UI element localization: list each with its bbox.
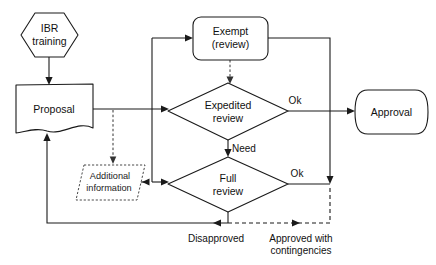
proposal-label: Proposal <box>33 103 74 115</box>
edge-exempt-to-expedited <box>227 60 234 84</box>
edge-label-full-ok: Ok <box>291 168 305 179</box>
flowchart-canvas: IBR training Proposal Additional informa… <box>0 0 436 265</box>
node-additional-information[interactable]: Additional information <box>76 165 145 200</box>
node-ibr-training[interactable]: IBR training <box>21 13 78 57</box>
edge-proposal-to-expedited <box>93 105 169 112</box>
ibr-training-label-line1: IBR <box>41 22 59 34</box>
approval-label: Approval <box>371 106 412 118</box>
edge-label-expedited-ok: Ok <box>289 95 303 106</box>
edge-label-disapproved: Disapproved <box>188 233 244 244</box>
node-expedited-review[interactable]: Expedited review <box>168 83 288 140</box>
additional-information-label-line1: Additional <box>90 171 130 181</box>
node-exempt-review[interactable]: Exempt (review) <box>193 17 268 60</box>
additional-information-label-line2: information <box>86 183 131 193</box>
node-approval[interactable]: Approval <box>355 90 428 134</box>
node-proposal[interactable]: Proposal <box>16 84 93 133</box>
exempt-label-line2: (review) <box>212 38 249 50</box>
edge-ibr-to-proposal <box>45 57 52 85</box>
edge-spine-to-full-review <box>152 178 169 185</box>
edge-label-approved-with-contingencies-line1: Approved with <box>269 233 332 244</box>
full-review-label-line1: Full <box>220 172 237 184</box>
full-review-label-line2: review <box>213 185 244 197</box>
ibr-training-label-line2: training <box>32 35 67 47</box>
edge-spine-to-exempt <box>152 34 193 41</box>
node-full-review[interactable]: Full review <box>168 157 288 212</box>
flowchart-svg: IBR training Proposal Additional informa… <box>0 0 436 265</box>
expedited-review-label-line1: Expedited <box>205 99 252 111</box>
edge-proposal-to-additional-info <box>110 110 117 164</box>
edge-label-approved-with-contingencies-line2: contingencies <box>270 245 331 256</box>
edge-expedited-need-to-full <box>224 140 231 157</box>
edge-expedited-ok-to-approval <box>288 107 355 114</box>
edge-label-need: Need <box>232 143 256 154</box>
expedited-review-label-line2: review <box>213 112 244 124</box>
exempt-label-line1: Exempt <box>213 25 249 37</box>
